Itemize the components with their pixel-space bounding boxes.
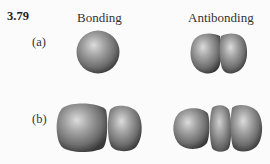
orbital-b-bonding: [57, 103, 142, 152]
orbital-figure: 3.79 Bonding Antibonding (a) (b): [0, 0, 270, 164]
orbital-b-antibonding: [173, 105, 262, 152]
orbital-drawings: [0, 0, 270, 164]
orbital-a-antibonding: [191, 34, 248, 74]
orbital-a-bonding: [77, 31, 120, 74]
